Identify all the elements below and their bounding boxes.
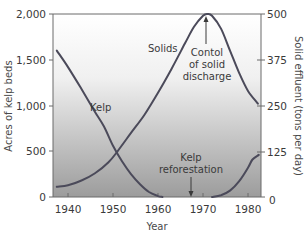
y-right-tick-label: 375: [267, 54, 287, 66]
right-y-axis-title: Solid effluent (tons per day): [293, 36, 304, 176]
y-tick-label: 1,000: [16, 100, 46, 112]
x-tick-label: 1960: [145, 203, 172, 215]
y-right-tick-label: 0: [269, 194, 276, 206]
solids-label: Solids: [148, 43, 178, 54]
x-tick-label: 1980: [235, 203, 262, 215]
left-y-axis: [49, 14, 53, 197]
left-y-tick-labels: 2,000 1,500 1,000 500 0: [16, 8, 46, 203]
x-axis-title: Year: [145, 221, 168, 232]
kelp-solids-chart: 2,000 1,500 1,000 500 0 500 375 250 125 …: [0, 0, 306, 234]
x-tick-label: 1970: [190, 203, 217, 215]
y-tick-label: 2,000: [16, 8, 46, 20]
refor-label-line1: Kelp: [180, 152, 201, 163]
right-y-tick-labels: 500 375 250 125 0: [267, 8, 287, 206]
y-tick-label: 0: [39, 191, 46, 203]
control-label-line2: of solid: [189, 59, 225, 70]
left-y-axis-title: Acres of kelp beds: [3, 60, 14, 151]
plot-area: [53, 14, 261, 197]
kelp-label: Kelp: [90, 102, 111, 113]
y-right-tick-label: 250: [267, 100, 287, 112]
refor-label-line2: reforestation: [159, 164, 223, 175]
y-right-tick-label: 125: [267, 146, 287, 158]
control-label-line1: Contol: [191, 47, 223, 58]
x-tick-label: 1940: [55, 203, 82, 215]
control-label-line3: discharge: [183, 71, 232, 82]
x-tick-label: 1950: [100, 203, 127, 215]
y-tick-label: 500: [26, 145, 46, 157]
y-right-tick-label: 500: [267, 8, 287, 20]
x-tick-labels: 1940 1950 1960 1970 1980: [55, 203, 262, 215]
y-tick-label: 1,500: [16, 54, 46, 66]
